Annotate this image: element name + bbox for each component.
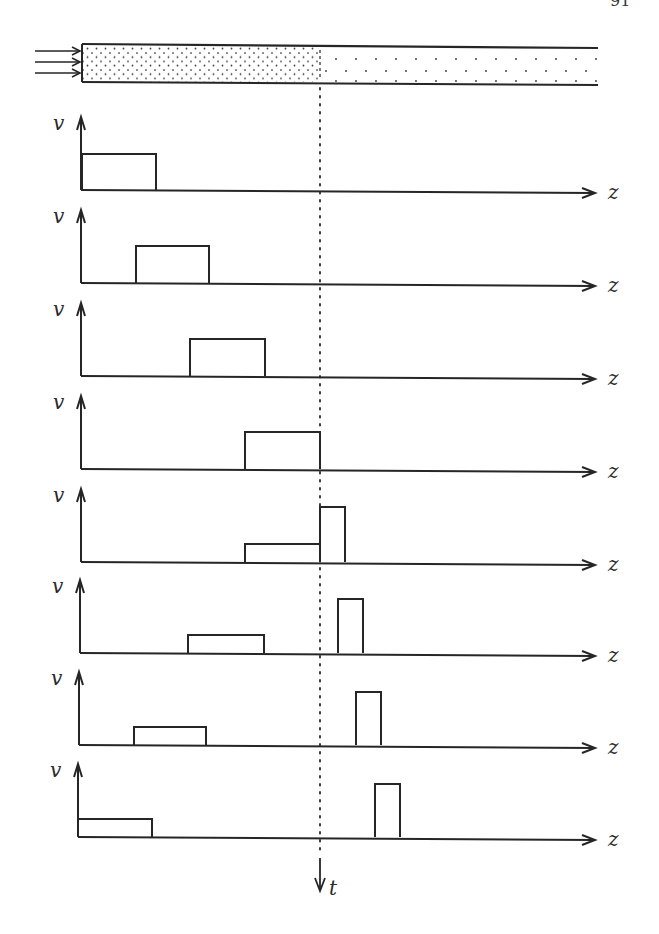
z-axis [78,837,594,840]
pulse-fast [338,599,363,653]
z-axis [81,190,594,193]
velocity-panel-5: vz [53,483,619,576]
pulse-slow [190,339,265,376]
diagram-canvas: 91 t vzvzvzvzvzvzvzvz [0,0,659,934]
pulse-slow [82,154,156,190]
z-axis [81,469,594,472]
tube-bottom-wall [82,82,598,85]
z-axis-label: z [607,552,619,576]
v-axis-label: v [53,390,65,414]
dense-region [83,47,320,82]
pulse-fast [356,692,381,745]
pulse-slow [245,432,320,469]
z-axis-label: z [607,827,619,851]
v-axis-label: v [53,204,65,228]
pulse-fast [320,507,345,562]
v-axis-label: v [53,111,65,135]
tube [35,44,598,85]
velocity-panels: vzvzvzvzvzvzvzvz [50,111,619,851]
z-axis-label: z [607,643,619,667]
pulse-slow [78,819,152,837]
z-axis [81,283,594,286]
sparse-region [322,50,598,82]
z-axis [80,653,594,656]
z-axis-label: z [607,735,619,759]
page-number: 91 [610,0,630,10]
z-axis-label: z [607,273,619,297]
velocity-panel-3: vz [53,297,619,390]
velocity-panel-6: vz [52,574,619,667]
v-axis-label: v [52,574,64,598]
z-axis-label: z [607,180,619,204]
v-axis-label: v [53,297,65,321]
z-axis-label: z [607,459,619,483]
velocity-panel-1: vz [53,111,619,204]
v-axis-label: v [50,758,62,782]
z-axis [81,376,594,379]
inflow-arrows-icon [35,47,80,77]
pulse-slow [136,246,209,283]
v-axis-label: v [53,483,65,507]
z-axis-label: z [607,366,619,390]
velocity-panel-8: vz [50,758,619,851]
velocity-panel-4: vz [53,390,619,483]
time-arrow-icon [315,858,325,891]
pulse-fast [375,784,400,837]
pulse-slow [134,727,206,745]
z-axis [79,745,594,748]
velocity-panel-2: vz [53,204,619,297]
time-label: t [329,876,338,900]
v-axis-label: v [51,666,63,690]
velocity-panel-7: vz [51,666,619,759]
pulse-slow [245,544,320,562]
z-axis [81,562,594,565]
pulse-slow [188,635,264,653]
